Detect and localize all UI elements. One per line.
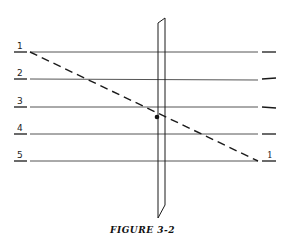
- left-label-5: 5: [17, 151, 23, 160]
- left-label-4: 4: [17, 124, 23, 133]
- left-label-1: 1: [17, 42, 23, 51]
- right-label-dashes: [262, 52, 276, 161]
- figure-3-2: 1 2 3 4 5 1 FIGURE 3-2: [0, 0, 285, 243]
- diagram-canvas: [0, 0, 285, 243]
- right-label-1: 1: [267, 151, 273, 160]
- horizontal-line-2: [30, 79, 258, 80]
- left-label-2: 2: [17, 69, 23, 78]
- figure-caption: FIGURE 3-2: [0, 225, 285, 235]
- left-label-3: 3: [17, 97, 23, 106]
- intersection-dot: [155, 115, 160, 120]
